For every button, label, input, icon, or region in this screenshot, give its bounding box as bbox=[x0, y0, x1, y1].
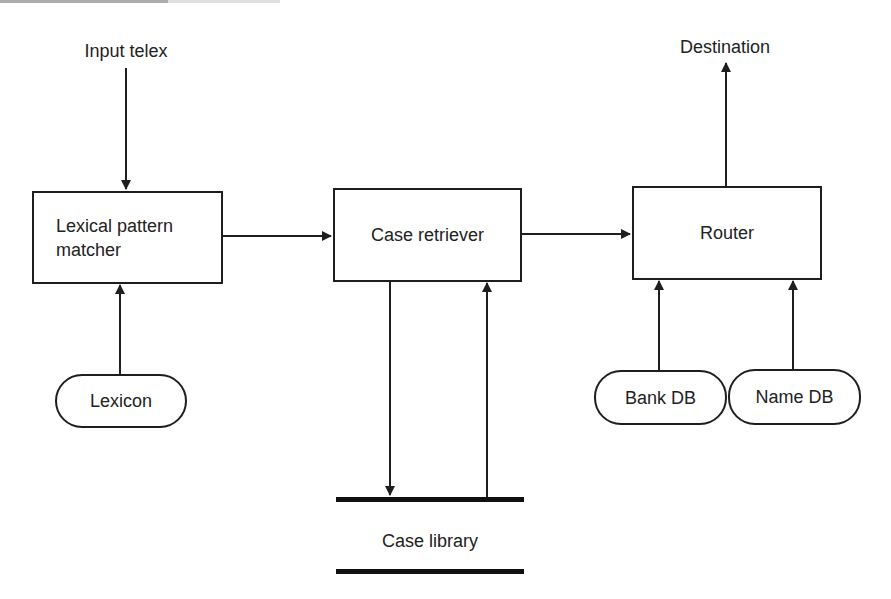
case-library-bottom-bar bbox=[336, 569, 524, 574]
name-db-pill: Name DB bbox=[728, 369, 861, 425]
bank-db-pill: Bank DB bbox=[594, 370, 727, 425]
lexicon-label: Lexicon bbox=[90, 389, 152, 413]
case-retriever-box: Case retriever bbox=[333, 188, 522, 282]
lexical-label-line1: Lexical pattern bbox=[56, 214, 173, 238]
router-box: Router bbox=[632, 186, 822, 280]
diagram-connectors bbox=[0, 0, 891, 599]
lexicon-pill: Lexicon bbox=[55, 374, 187, 428]
case-retriever-label: Case retriever bbox=[371, 223, 484, 247]
destination-label: Destination bbox=[680, 36, 770, 58]
lexical-pattern-matcher-label: Lexical pattern matcher bbox=[56, 214, 173, 262]
lexical-pattern-matcher-box: Lexical pattern matcher bbox=[32, 191, 223, 284]
lexical-label-line2: matcher bbox=[56, 238, 173, 262]
case-library-top-bar bbox=[336, 497, 524, 502]
case-library-label: Case library bbox=[382, 530, 478, 552]
router-label: Router bbox=[700, 221, 754, 245]
input-telex-label: Input telex bbox=[84, 40, 167, 62]
bank-db-label: Bank DB bbox=[625, 386, 696, 410]
name-db-label: Name DB bbox=[755, 385, 833, 409]
